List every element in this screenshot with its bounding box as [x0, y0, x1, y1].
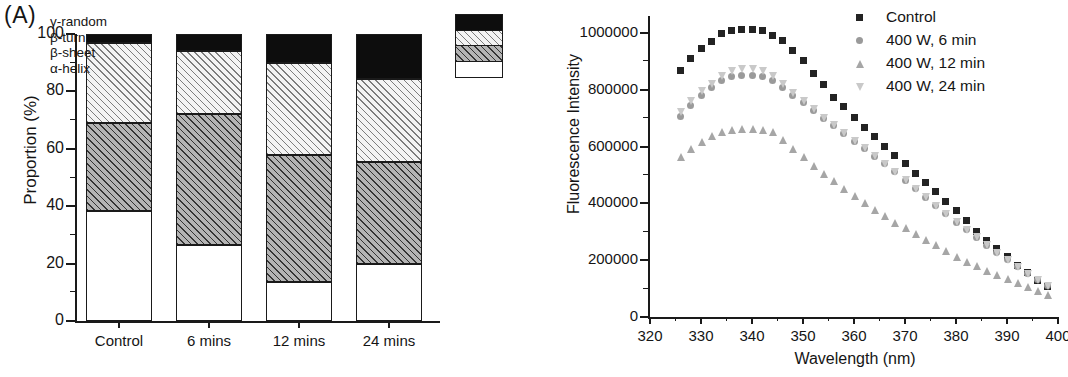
panel-b-data-point [708, 38, 715, 45]
panel-b-data-point [810, 105, 818, 113]
panel-a-y-tick-label: 60 [26, 139, 64, 157]
panel-b-x-tick-label: 330 [681, 327, 721, 344]
panel-b-x-tick [1006, 317, 1008, 324]
panel-b-data-point [1024, 270, 1032, 278]
panel-b-data-point [912, 230, 920, 238]
panel-b-data-point [1014, 279, 1022, 287]
panel-a-bar-segment-beta-turn [176, 51, 242, 114]
panel-b-data-point [759, 67, 767, 75]
panel-b-x-tick-label: 380 [936, 327, 976, 344]
panel-b-x-tick-label: 400 [1038, 327, 1068, 344]
panel-b-data-point [718, 30, 725, 37]
panel-b-legend-label: 400 W, 12 min [886, 54, 985, 72]
panel-b-data-point [718, 72, 726, 80]
panel-b-data-point [840, 103, 847, 110]
panel-a-bar-segment-alpha [176, 245, 242, 321]
panel-b-x-tick-label: 360 [834, 327, 874, 344]
panel-b-x-tick [700, 317, 702, 324]
panel-b-data-point [871, 133, 878, 140]
panel-b-data-point [993, 271, 1001, 279]
panel-b-data-point [861, 124, 868, 131]
panel-a-legend-swatch [456, 31, 502, 47]
panel-a-x-tick [208, 321, 210, 328]
panel-b-data-point [871, 152, 879, 160]
panel-a-y-tick [70, 291, 75, 292]
panel-b-x-tick [930, 317, 931, 321]
panel-b-data-point [840, 185, 848, 193]
panel-b-x-tick-label: 320 [630, 327, 670, 344]
panel-b-data-point [677, 67, 684, 74]
panel-b-legend-row: Control [850, 6, 1065, 29]
panel-b-x-axis-title: Wavelength (nm) [690, 350, 1020, 368]
panel-a-y-axis-line [75, 34, 77, 322]
panel-b-data-point [881, 160, 889, 168]
panel-b-data-point [1034, 276, 1042, 284]
panel-b-data-point [851, 192, 859, 200]
panel-a-y-tick [66, 263, 75, 265]
panel-b-data-point [963, 217, 970, 224]
panel-b-data-point [687, 55, 694, 62]
panel-a-legend-label: β-sheet [50, 45, 95, 60]
panel-b-data-point [810, 70, 817, 77]
panel-b-x-tick-label: 340 [732, 327, 772, 344]
panel-a-x-tick-label: 6 mins [164, 332, 254, 349]
panel-b-data-point [902, 176, 910, 184]
panel-b-x-tick [853, 317, 855, 324]
panel-b-x-tick [981, 317, 982, 321]
panel-b-data-point [738, 125, 746, 133]
panel-b-y-tick-label: 600000 [554, 137, 638, 154]
panel-b-data-point [953, 218, 961, 226]
panel-b-data-point [820, 114, 828, 122]
panel-b-data-point [759, 27, 766, 34]
panel-b-x-tick [777, 317, 778, 321]
panel-a-x-tick [118, 321, 120, 328]
panel-b-data-point [983, 267, 991, 275]
panel-a-bar-segment-alpha [266, 282, 332, 321]
panel-b-data-point [820, 81, 827, 88]
figure-container: (A) Proportion (%) 020406080100 Control6… [0, 0, 1068, 377]
panel-a-bar [266, 34, 332, 321]
panel-a-bar-segment-beta-sheet [176, 114, 242, 245]
panel-b-data-point [769, 128, 777, 136]
panel-a-bar-segment-gamma [176, 34, 242, 51]
panel-a-y-tick [66, 320, 75, 322]
panel-b-data-point [902, 224, 910, 232]
panel-b-y-tick-label: 1000000 [554, 23, 638, 40]
panel-b-y-tick [640, 202, 648, 204]
panel-b-data-point [698, 138, 706, 146]
panel-b-x-tick-label: 390 [987, 327, 1027, 344]
panel-a-bar [86, 34, 152, 321]
panel-b-data-point [800, 57, 807, 64]
panel-a-legend-swatch [456, 46, 502, 62]
panel-b-x-tick [904, 317, 906, 324]
panel-b-data-point [932, 188, 939, 195]
panel-a-bar-segment-beta-sheet [86, 123, 152, 211]
panel-b-data-point [912, 185, 920, 193]
panel-a-x-tick [388, 321, 390, 328]
panel-b-data-point [1004, 256, 1012, 264]
panel-a-bar-segment-alpha [356, 264, 422, 321]
panel-b-data-point [953, 207, 960, 214]
panel-b-data-point [779, 37, 786, 44]
panel-b-data-point [871, 206, 879, 214]
panel-b-data-point [1024, 283, 1032, 291]
panel-b-data-point [749, 125, 757, 133]
panel-b-data-point [902, 160, 909, 167]
panel-b-data-point [749, 65, 757, 73]
panel-b-data-point [708, 132, 716, 140]
panel-b-legend-marker [856, 14, 863, 21]
panel-a-y-tick [70, 119, 75, 120]
panel-b-data-point [1034, 287, 1042, 295]
panel-b: (B) Fluorescence Intensity Wavelength (n… [540, 0, 1068, 377]
panel-b-data-point [942, 247, 950, 255]
panel-b-data-point [759, 126, 767, 134]
panel-b-y-tick [640, 316, 648, 318]
panel-b-data-point [881, 143, 888, 150]
panel-a-x-tick [298, 321, 300, 328]
panel-b-y-tick [643, 117, 648, 118]
panel-b-data-point [1004, 275, 1012, 283]
panel-b-y-tick-labels: 02000004000006000008000001000000 [550, 0, 638, 377]
panel-a-bar-segment-beta-turn [356, 79, 422, 162]
panel-b-data-point [789, 89, 797, 97]
panel-a-legend [455, 14, 503, 78]
